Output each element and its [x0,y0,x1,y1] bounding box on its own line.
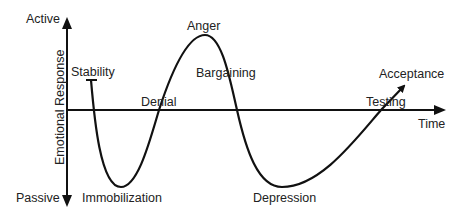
stage-bargaining: Bargaining [196,67,256,80]
stage-testing: Testing [366,96,406,109]
y-bottom-label: Passive [16,192,60,205]
stage-denial: Denial [141,96,176,109]
x-axis-arrow-icon [434,105,446,115]
y-top-label: Active [26,13,60,26]
y-axis-top-arrow-icon [62,17,72,29]
stage-stability: Stability [71,66,115,79]
x-axis-label: Time [418,118,445,131]
y-axis-bottom-arrow-icon [62,195,72,207]
stage-acceptance: Acceptance [379,68,444,81]
stage-immobilization: Immobilization [82,192,162,205]
stage-depression: Depression [253,192,316,205]
stage-anger: Anger [187,20,220,33]
y-axis-label: Emotional Response [53,50,67,165]
